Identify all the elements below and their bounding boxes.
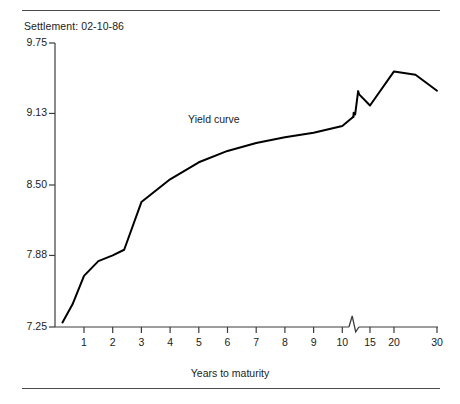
y-axis-tick-label: 9.75: [13, 36, 47, 48]
x-axis-ticks: [84, 327, 437, 333]
yield-curve-line: [62, 71, 437, 322]
x-axis-tick-label: 9: [302, 336, 326, 348]
axis-lines: [49, 43, 438, 327]
x-axis-tick-label: 7: [244, 336, 268, 348]
x-axis-title: Years to maturity: [0, 367, 460, 379]
x-axis-tick-label: 4: [158, 336, 182, 348]
x-axis-tick-label: 5: [187, 336, 211, 348]
y-axis-tick-label: 9.13: [13, 106, 47, 118]
x-axis-tick-label: 8: [273, 336, 297, 348]
y-axis-tick-label: 8.50: [13, 178, 47, 190]
x-axis-tick-label: 20: [382, 336, 406, 348]
x-axis-tick-label: 10: [330, 336, 354, 348]
yield-curve-figure: Settlement: 02-10-86 7.257.888.509.139.7…: [0, 0, 460, 404]
x-axis-tick-label: 6: [216, 336, 240, 348]
y-axis-tick-label: 7.88: [13, 248, 47, 260]
x-axis-tick-label: 1: [72, 336, 96, 348]
x-axis-tick-label: 3: [129, 336, 153, 348]
x-axis-tick-label: 30: [425, 336, 449, 348]
x-axis-tick-label: 2: [101, 336, 125, 348]
yield-curve-annotation-label: Yield curve: [188, 113, 240, 125]
x-axis-break-zigzag-icon: [349, 316, 359, 332]
y-axis-tick-label: 7.25: [13, 320, 47, 332]
x-axis-tick-label: 15: [358, 336, 382, 348]
y-axis-ticks: [49, 113, 55, 327]
